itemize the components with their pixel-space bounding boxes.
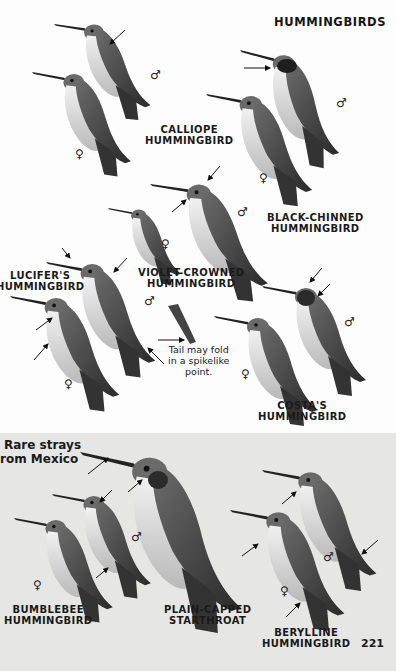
rare-strays-heading-line1: Rare strays xyxy=(0,438,81,452)
lucifers-name-line2: HUMMINGBIRD xyxy=(0,281,84,292)
lucifers-female-symbol: ♀ xyxy=(64,378,73,390)
black-chinned-female-symbol: ♀ xyxy=(259,172,268,184)
bumblebee-name-line2: HUMMINGBIRD xyxy=(4,615,92,626)
black-chinned-name-line2: HUMMINGBIRD xyxy=(267,223,364,234)
page-title: HUMMINGBIRDS xyxy=(274,15,386,29)
costas-female-symbol: ♀ xyxy=(241,368,250,380)
plain-capped-starthroat-label: PLAIN-CAPPED STARTHROAT xyxy=(164,604,251,626)
lucifers-name-line1: LUCIFER'S xyxy=(0,270,84,281)
tail-note-line2: in a spikelike xyxy=(168,355,229,366)
tail-note-line1: Tail may fold xyxy=(168,344,229,355)
black-chinned-male-symbol: ♂ xyxy=(336,97,347,109)
berylline-male-symbol: ♂ xyxy=(323,551,334,563)
black-chinned-label: BLACK-CHINNED HUMMINGBIRD xyxy=(267,212,364,234)
calliope-male-symbol: ♂ xyxy=(150,69,161,81)
rare-strays-heading: Rare strays rom Mexico xyxy=(0,438,81,466)
calliope-label: CALLIOPE HUMMINGBIRD xyxy=(145,124,233,146)
field-guide-page: HUMMINGBIRDS CALLIOPE HUMMINGBIRD ♂ ♀ BL… xyxy=(0,0,396,671)
calliope-name-line1: CALLIOPE xyxy=(145,124,233,135)
calliope-female-symbol: ♀ xyxy=(75,148,84,160)
berylline-female-symbol: ♀ xyxy=(280,585,289,597)
lucifers-male-symbol: ♂ xyxy=(144,295,155,307)
bumblebee-male-symbol: ♂ xyxy=(131,531,142,543)
tail-note: Tail may fold in a spikelike point. xyxy=(168,344,229,377)
black-chinned-name-line1: BLACK-CHINNED xyxy=(267,212,364,223)
violet-crowned-male-symbol: ♂ xyxy=(237,206,248,218)
costas-label: COSTA'S HUMMINGBIRD xyxy=(258,400,346,422)
costas-male-symbol: ♂ xyxy=(344,316,355,328)
bumblebee-name-line1: BUMBLEBEE xyxy=(4,604,92,615)
violet-crowned-female-symbol: ♀ xyxy=(161,238,170,250)
violet-crowned-name-line1: VIOLET-CROWNED xyxy=(138,267,244,278)
calliope-name-line2: HUMMINGBIRD xyxy=(145,135,233,146)
costas-name-line2: HUMMINGBIRD xyxy=(258,411,346,422)
berylline-label: BERYLLINE HUMMINGBIRD xyxy=(262,627,350,649)
costas-name-line1: COSTA'S xyxy=(258,400,346,411)
bumblebee-female-symbol: ♀ xyxy=(33,579,42,591)
violet-crowned-label: VIOLET-CROWNED HUMMINGBIRD xyxy=(138,267,244,289)
berylline-name-line1: BERYLLINE xyxy=(262,627,350,638)
starthroat-name-line1: PLAIN-CAPPED xyxy=(164,604,251,615)
violet-crowned-name-line2: HUMMINGBIRD xyxy=(138,278,244,289)
tail-note-line3: point. xyxy=(168,366,229,377)
rare-strays-heading-line2: rom Mexico xyxy=(0,452,81,466)
bumblebee-label: BUMBLEBEE HUMMINGBIRD xyxy=(4,604,92,626)
starthroat-name-line2: STARTHROAT xyxy=(164,615,251,626)
lucifers-label: LUCIFER'S HUMMINGBIRD xyxy=(0,270,84,292)
berylline-name-line2: HUMMINGBIRD xyxy=(262,638,350,649)
page-number: 221 xyxy=(361,637,384,650)
